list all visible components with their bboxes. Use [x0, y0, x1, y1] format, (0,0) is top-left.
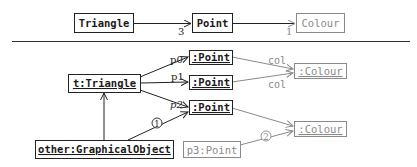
class-triangle-label: Triangle	[79, 17, 130, 29]
object-point-0[interactable]: :Point	[190, 51, 233, 65]
svg-text:2: 2	[263, 132, 268, 142]
object-colour-2[interactable]: :Colour	[295, 122, 347, 137]
object-point-1-label: :Point	[192, 76, 230, 88]
svg-text:1: 1	[154, 119, 159, 129]
object-point-2[interactable]: :Point	[190, 101, 233, 115]
step-badge-2: 2	[261, 131, 271, 142]
object-other-graphicalobject[interactable]: other:GraphicalObject	[36, 141, 174, 159]
class-diagram: Triangle 3 Point 1 Colour	[75, 14, 345, 38]
object-colour-1-label: :Colour	[298, 65, 342, 77]
link-pt2-colour	[232, 108, 293, 126]
multiplicity-1: 1	[286, 26, 292, 37]
object-point-2-label: :Point	[192, 101, 230, 113]
object-p3-point[interactable]: p3:Point	[184, 142, 241, 158]
class-colour-label: Colour	[302, 17, 340, 29]
object-t-triangle[interactable]: t:Triangle	[69, 75, 141, 93]
object-point-0-label: :Point	[192, 51, 230, 63]
diagram-canvas: Triangle 3 Point 1 Colour p0 p1 p2 col c…	[0, 0, 417, 167]
link-p1	[140, 82, 188, 83]
multiplicity-3: 3	[178, 26, 184, 37]
object-t-triangle-label: t:Triangle	[73, 77, 136, 89]
class-point-label: Point	[197, 17, 229, 29]
class-point[interactable]: Point	[193, 14, 233, 33]
link-p0-label: p0	[170, 54, 183, 65]
object-other-label: other:GraphicalObject	[38, 143, 171, 155]
object-p3-label: p3:Point	[187, 144, 238, 156]
object-point-1[interactable]: :Point	[190, 76, 233, 90]
class-triangle[interactable]: Triangle	[75, 14, 134, 33]
object-diagram: p0 p1 p2 col col 1 2 t:Triangle	[36, 51, 347, 159]
object-colour-2-label: :Colour	[298, 123, 342, 135]
link-p1-label: p1	[171, 71, 184, 82]
link-p2-label: p2	[170, 99, 183, 110]
object-colour-1[interactable]: :Colour	[295, 64, 347, 79]
link-col-0-label: col	[268, 55, 286, 66]
link-col-1-label: col	[268, 79, 286, 90]
step-badge-1: 1	[152, 118, 162, 129]
class-colour[interactable]: Colour	[297, 14, 345, 33]
